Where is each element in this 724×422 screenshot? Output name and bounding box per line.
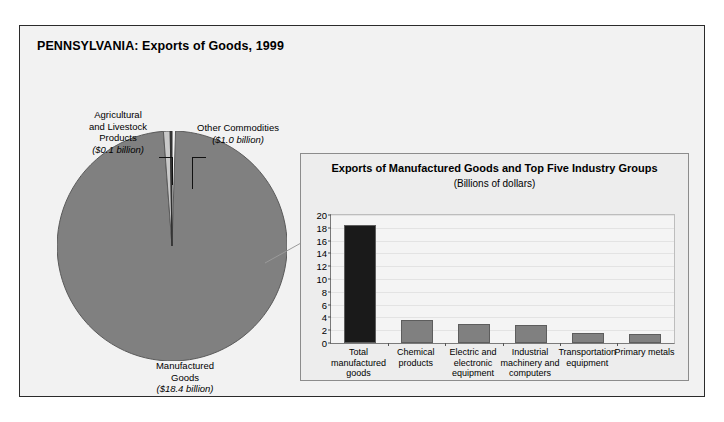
callout-connector: [265, 241, 305, 286]
x-tick-mark: [560, 343, 561, 346]
x-axis-label-line: products: [398, 358, 433, 368]
y-axis-tick-label: 12: [316, 261, 327, 272]
inset-chart-subtitle: (Billions of dollars): [301, 178, 688, 189]
pie-label-manufactured-value: ($18.4 billion): [156, 383, 213, 394]
x-axis-category-label: Electric andelectronicequipment: [440, 347, 505, 379]
y-tick-mark: [328, 317, 331, 318]
y-tick-mark: [328, 304, 331, 305]
y-axis-tick-label: 6: [322, 299, 327, 310]
x-axis-label-line: manufactured: [331, 358, 386, 368]
leader-line-other-vertical: [192, 157, 193, 189]
y-tick-mark: [328, 330, 331, 331]
y-gridline: [331, 241, 674, 242]
y-axis-tick-label: 14: [316, 248, 327, 259]
y-tick-mark: [328, 253, 331, 254]
x-axis-label-line: Transportation: [558, 347, 616, 357]
x-tick-mark: [617, 343, 618, 346]
x-axis-label-line: Electric and: [449, 347, 496, 357]
y-tick-mark: [328, 215, 331, 216]
figure-frame: PENNSYLVANIA: Exports of Goods, 1999 Agr…: [19, 25, 705, 397]
pie-label-agricultural: Agricultural and Livestock Products ($0.…: [64, 109, 172, 155]
x-axis-label-line: Chemical: [397, 347, 435, 357]
pie-label-agricultural-line3: Products: [99, 132, 137, 143]
y-axis-tick-label: 16: [316, 235, 327, 246]
y-tick-mark: [328, 240, 331, 241]
pie-label-other: Other Commodities ($1.0 billion): [178, 122, 298, 145]
pie-label-manufactured-line1: Manufactured: [156, 360, 214, 371]
x-axis-label-line: machinery and: [501, 358, 560, 368]
x-axis-label-line: goods: [346, 368, 371, 378]
bar-4: [572, 333, 604, 343]
x-tick-mark: [388, 343, 389, 346]
x-axis-label-line: Primary metals: [614, 347, 674, 357]
page-title: PENNSYLVANIA: Exports of Goods, 1999: [37, 39, 284, 53]
x-axis-label-line: electronic: [454, 358, 493, 368]
y-gridline: [331, 279, 674, 280]
y-gridline: [331, 292, 674, 293]
inset-bar-chart-panel: Exports of Manufactured Goods and Top Fi…: [300, 153, 689, 381]
leader-line-agricultural-horizontal: [159, 157, 173, 158]
pie-label-agricultural-value: ($0.1 billion): [92, 144, 144, 155]
pie-label-manufactured: Manufactured Goods ($18.4 billion): [115, 360, 255, 395]
leader-line-other-horizontal: [192, 157, 206, 158]
x-axis-label-line: equipment: [566, 358, 608, 368]
x-tick-mark: [503, 343, 504, 346]
x-axis-category-label: Transportationequipment: [555, 347, 620, 368]
x-axis-category-label: Chemicalproducts: [383, 347, 448, 368]
y-axis-tick-label: 20: [316, 210, 327, 221]
x-axis-label-line: Industrial: [512, 347, 549, 357]
y-tick-mark: [328, 291, 331, 292]
x-axis-category-label: Primary metals: [612, 347, 677, 358]
bar-3: [515, 325, 547, 343]
bar-1: [401, 320, 433, 343]
pie-label-other-value: ($1.0 billion): [212, 134, 264, 145]
x-axis-label-line: Total: [349, 347, 368, 357]
y-tick-mark: [328, 266, 331, 267]
bar-5: [629, 334, 661, 343]
y-axis-tick-label: 18: [316, 222, 327, 233]
pie-label-other-line1: Other Commodities: [197, 122, 279, 133]
pie-label-agricultural-line2: and Livestock: [89, 121, 147, 132]
bar-0: [344, 225, 376, 343]
pie-label-manufactured-line2: Goods: [171, 372, 199, 383]
x-axis-label-line: equipment: [452, 368, 494, 378]
pie-label-agricultural-line1: Agricultural: [94, 109, 142, 120]
leader-line-agricultural-vertical: [172, 157, 173, 185]
inset-chart-title: Exports of Manufactured Goods and Top Fi…: [301, 162, 688, 174]
x-axis-category-label: Industrialmachinery andcomputers: [498, 347, 563, 379]
y-axis-tick-label: 10: [316, 274, 327, 285]
y-gridline: [331, 330, 674, 331]
y-tick-mark: [328, 279, 331, 280]
y-gridline: [331, 266, 674, 267]
y-axis-tick-label: 2: [322, 325, 327, 336]
y-gridline: [331, 215, 674, 216]
y-tick-mark: [328, 343, 331, 344]
x-axis-label-line: computers: [509, 368, 551, 378]
x-axis-category-label: Totalmanufacturedgoods: [326, 347, 391, 379]
y-gridline: [331, 253, 674, 254]
y-axis-tick-label: 4: [322, 312, 327, 323]
x-tick-mark: [445, 343, 446, 346]
bar-plot-area: 02468101214161820: [330, 214, 675, 344]
y-gridline: [331, 228, 674, 229]
y-gridline: [331, 317, 674, 318]
y-axis-tick-label: 8: [322, 286, 327, 297]
y-gridline: [331, 305, 674, 306]
bar-2: [458, 324, 490, 343]
y-tick-mark: [328, 227, 331, 228]
